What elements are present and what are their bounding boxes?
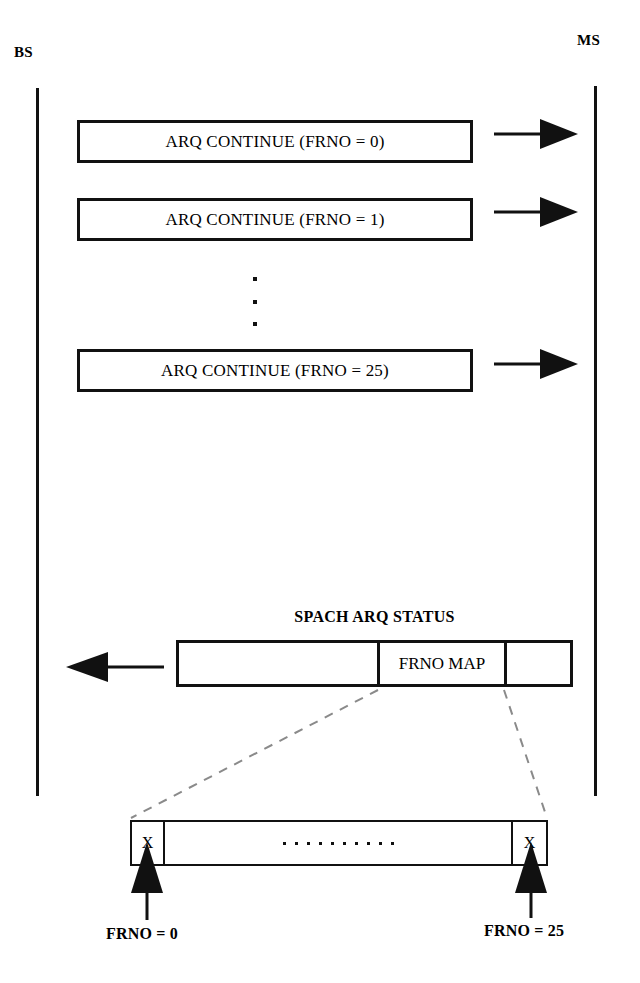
- arrow-to-ms-1: [494, 197, 578, 227]
- status-message-box: FRNO MAP: [176, 640, 573, 687]
- arrow-to-ms-0: [494, 119, 578, 149]
- ellipsis-dot: [253, 322, 257, 326]
- frno-map-cell-first: X: [132, 822, 165, 864]
- message-label: ARQ CONTINUE (FRNO = 25): [161, 361, 389, 381]
- frno-annotation-last: FRNO = 25: [484, 922, 564, 940]
- ellipsis-dot: [379, 842, 382, 845]
- ellipsis-dot: [283, 842, 286, 845]
- status-field-blank-right: [507, 643, 570, 684]
- frno-map-cell-last: X: [513, 822, 546, 864]
- ellipsis-dot: [295, 842, 298, 845]
- status-field-frno-map: FRNO MAP: [380, 643, 507, 684]
- callout-line-right: [504, 690, 547, 818]
- arrow-to-ms-25: [494, 349, 578, 379]
- message-label: ARQ CONTINUE (FRNO = 0): [165, 132, 384, 152]
- frno-map-cell-middle: [165, 822, 513, 864]
- ellipsis-dot: [343, 842, 346, 845]
- frno-annotation-first: FRNO = 0: [106, 925, 178, 943]
- ellipsis-dot: [253, 300, 257, 304]
- lifeline-bs: [36, 88, 39, 796]
- status-field-label: FRNO MAP: [399, 654, 485, 674]
- lifeline-ms: [594, 86, 597, 796]
- ellipsis-dot: [391, 842, 394, 845]
- ellipsis-dot: [355, 842, 358, 845]
- endpoint-label-ms: MS: [577, 32, 600, 49]
- message-box-arq-continue-1: ARQ CONTINUE (FRNO = 1): [77, 198, 473, 241]
- vertical-ellipsis: [252, 277, 257, 326]
- message-box-arq-continue-0: ARQ CONTINUE (FRNO = 0): [77, 120, 473, 163]
- frno-map-expansion-box: X X: [130, 820, 548, 866]
- status-message-title: SPACH ARQ STATUS: [176, 608, 573, 626]
- sequence-diagram-canvas: BS MS ARQ CONTINUE (FRNO = 0) ARQ CONTIN…: [0, 0, 640, 983]
- callout-line-left: [131, 690, 378, 818]
- message-label: ARQ CONTINUE (FRNO = 1): [165, 210, 384, 230]
- endpoint-label-bs: BS: [14, 44, 33, 61]
- frno-map-cell-label: X: [524, 834, 536, 852]
- horizontal-ellipsis: [283, 842, 394, 845]
- frno-map-cell-label: X: [142, 834, 154, 852]
- ellipsis-dot: [307, 842, 310, 845]
- arrow-to-bs-status: [66, 652, 164, 682]
- ellipsis-dot: [253, 277, 257, 281]
- ellipsis-dot: [367, 842, 370, 845]
- status-field-blank-left: [179, 643, 380, 684]
- message-box-arq-continue-25: ARQ CONTINUE (FRNO = 25): [77, 349, 473, 392]
- ellipsis-dot: [331, 842, 334, 845]
- ellipsis-dot: [319, 842, 322, 845]
